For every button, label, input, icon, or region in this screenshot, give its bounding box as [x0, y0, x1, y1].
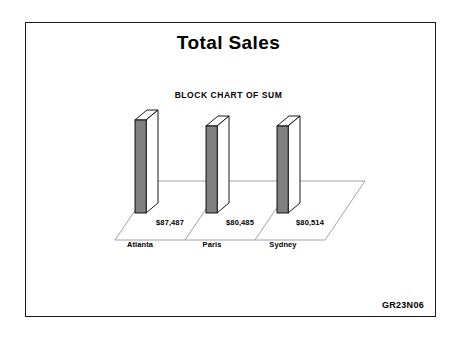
- category-label-paris: Paris: [177, 240, 247, 249]
- bar-atlanta[interactable]: [135, 110, 158, 213]
- bar-value-label-atlanta: $87,487: [135, 218, 205, 227]
- bar-paris[interactable]: [206, 116, 229, 213]
- bar-value-label-sydney: $80,514: [275, 218, 345, 227]
- bar-value-label-paris: $80,485: [205, 218, 275, 227]
- footer-reference-code: GR23N06: [382, 300, 424, 310]
- slide-canvas: Total Sales BLOCK CHART OF SUM: [0, 0, 457, 338]
- block-chart: $87,487 $80,485 $80,514 Atlanta Paris Sy…: [25, 22, 436, 317]
- bar-sydney[interactable]: [277, 116, 300, 213]
- category-label-atlanta: Atlanta: [105, 240, 175, 249]
- category-label-sydney: Sydney: [248, 240, 318, 249]
